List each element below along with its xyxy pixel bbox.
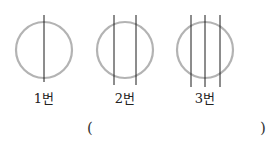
circles-diagram <box>0 0 273 146</box>
figure-2-label: 2번 <box>115 88 135 107</box>
figure-1 <box>16 15 72 82</box>
figure-3 <box>177 15 233 87</box>
figure-2 <box>97 15 153 85</box>
answer-close-paren: ) <box>260 119 266 137</box>
circle-2 <box>97 22 153 78</box>
figure-3-label: 3번 <box>195 88 215 107</box>
answer-open-paren: ( <box>87 119 93 137</box>
figure-1-label: 1번 <box>34 88 54 107</box>
